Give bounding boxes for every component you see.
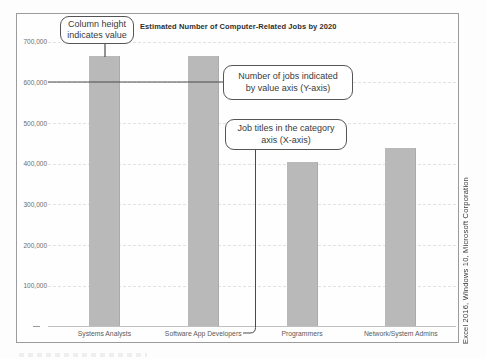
- callout-line: Column height: [68, 19, 126, 31]
- cutoff-caption-artifact: [19, 353, 147, 357]
- y-tick-label: 200,000: [16, 242, 47, 249]
- bar: [385, 148, 416, 327]
- axis-origin-tick: [33, 326, 40, 327]
- callout-line: indicates value: [67, 30, 127, 42]
- bar: [89, 56, 120, 327]
- x-category-label: Software App Developers: [154, 330, 253, 337]
- y-tick-label: 700,000: [16, 38, 47, 45]
- x-axis-line: [48, 326, 456, 327]
- y-tick-label: 600,000: [16, 79, 47, 86]
- bar: [287, 162, 318, 327]
- callout-line: Number of jobs indicated: [238, 71, 338, 83]
- callout-line: axis (X-axis): [261, 135, 311, 147]
- bar: [188, 56, 219, 327]
- callout-line: by value axis (Y-axis): [246, 83, 331, 95]
- textbook-chart-figure: Estimated Number of Computer-Related Job…: [0, 0, 486, 359]
- x-category-label: Systems Analysts: [55, 330, 154, 337]
- x-category-label: Programmers: [253, 330, 352, 337]
- y-tick-label: 100,000: [16, 282, 47, 289]
- callout-value-axis: Number of jobs indicated by value axis (…: [223, 65, 353, 100]
- callout-line: Job titles in the category: [237, 123, 334, 135]
- callout-category-axis: Job titles in the category axis (X-axis): [225, 119, 347, 150]
- y-tick-label: 500,000: [16, 120, 47, 127]
- y-tick-label: 300,000: [16, 201, 47, 208]
- callout-column-height: Column height indicates value: [60, 16, 134, 44]
- chart-title: Estimated Number of Computer-Related Job…: [140, 22, 337, 31]
- y-tick-label: 400,000: [16, 160, 47, 167]
- x-category-label: Network/System Admins: [351, 330, 450, 337]
- figure-credit-caption: Excel 2016, Windows 10, Microsoft Corpor…: [461, 177, 470, 344]
